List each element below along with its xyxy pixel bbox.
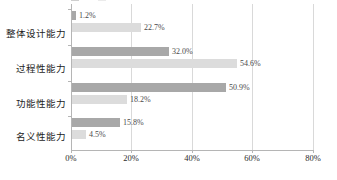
bar-group-3-series-1: 4.5%	[72, 130, 106, 139]
bar-group-0-series-0: 1.2%	[72, 11, 96, 20]
x-axis-tick-label-20: 20%	[123, 153, 139, 163]
bar-chart: 整体设计能力 过程性能力 功能性能力 名义性能力 1.2% 22.7% 32.0…	[0, 0, 337, 180]
bar-value-3-0: 15.8%	[123, 118, 144, 127]
legend-swatch-series-2	[98, 0, 106, 1]
y-axis-label-2: 功能性能力	[0, 99, 66, 110]
bar-0-1	[72, 23, 141, 32]
legend-label-series-2	[110, 0, 121, 2]
y-axis-label-3: 名义性能力	[0, 132, 66, 143]
bar-value-0-0: 1.2%	[79, 11, 96, 20]
legend-row	[71, 0, 120, 3]
bar-3-1	[72, 130, 86, 139]
x-axis-tick-label-40: 40%	[184, 153, 200, 163]
y-axis-label-1: 过程性能力	[0, 64, 66, 75]
y-axis-tick-2	[68, 81, 71, 82]
legend-swatch-series-1	[71, 0, 79, 1]
bar-value-3-1: 4.5%	[89, 130, 106, 139]
gridline-60	[252, 4, 253, 150]
legend-label-series-1	[83, 0, 94, 2]
bar-group-1-series-1: 54.6%	[72, 59, 261, 68]
bar-value-1-1: 54.6%	[240, 59, 261, 68]
bar-value-2-0: 50.9%	[229, 83, 250, 92]
bar-2-0	[72, 83, 226, 92]
gridline-40	[192, 4, 193, 150]
bar-1-1	[72, 59, 237, 68]
gridline-80	[313, 4, 314, 150]
bar-value-1-0: 32.0%	[172, 47, 193, 56]
x-axis-tick-label-60: 60%	[244, 153, 260, 163]
y-axis-label-0: 整体设计能力	[0, 29, 66, 40]
bar-1-0	[72, 47, 169, 56]
bar-2-1	[72, 95, 127, 104]
bar-group-2-series-0: 50.9%	[72, 83, 250, 92]
bar-value-2-1: 18.2%	[130, 95, 151, 104]
y-axis-tick-0	[68, 9, 71, 10]
y-axis-tick-1	[68, 45, 71, 46]
bar-3-0	[72, 118, 120, 127]
y-axis-tick-3	[68, 116, 71, 117]
bar-group-2-series-1: 18.2%	[72, 95, 151, 104]
chart-legend	[71, 0, 313, 3]
bar-group-3-series-0: 15.8%	[72, 118, 144, 127]
x-axis-tick-label-80: 80%	[305, 153, 321, 163]
bar-value-0-1: 22.7%	[144, 23, 165, 32]
x-axis-tick-labels: 0% 20% 40% 60% 80%	[0, 153, 337, 169]
bar-0-0	[72, 11, 76, 20]
x-axis-tick-label-0: 0%	[65, 153, 76, 163]
bar-group-1-series-0: 32.0%	[72, 47, 193, 56]
bar-group-0-series-1: 22.7%	[72, 23, 165, 32]
